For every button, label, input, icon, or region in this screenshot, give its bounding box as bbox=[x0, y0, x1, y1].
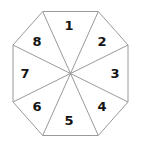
sector-label-4: 4 bbox=[97, 100, 106, 113]
sector-label-3: 3 bbox=[110, 67, 119, 80]
sector-label-8: 8 bbox=[32, 35, 41, 48]
octagon-center-point bbox=[69, 72, 71, 74]
sector-label-7: 7 bbox=[20, 67, 29, 80]
sector-label-6: 6 bbox=[32, 100, 41, 113]
sector-label-5: 5 bbox=[64, 114, 73, 127]
center-dot bbox=[69, 72, 71, 74]
octagon-figure: 1 2 3 4 5 6 7 8 bbox=[0, 0, 141, 146]
octagon-spoke-2 bbox=[71, 12, 99, 74]
sector-label-2: 2 bbox=[97, 35, 106, 48]
sector-label-1: 1 bbox=[64, 19, 73, 32]
octagon-spoke-5 bbox=[71, 74, 99, 136]
